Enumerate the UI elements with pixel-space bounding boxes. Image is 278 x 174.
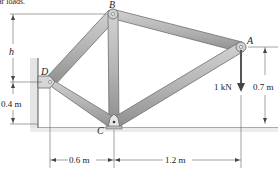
dim-label-0-6m: 0.6 m [69,155,90,165]
member-db [46,10,117,86]
dim-label-0-4m: 0.4 m [1,99,22,109]
header-fragment: ar loads. [0,0,25,6]
dim-label-h: h [9,46,14,57]
truss-members [46,9,244,129]
joint-label-c: C [97,125,104,136]
load-arrow [237,50,245,92]
dim-label-0-7m: 0.7 m [253,82,274,92]
joint-label-a: A [246,35,254,46]
dimension-lines [10,14,278,168]
joint-label-d: D [40,66,49,77]
joint-label-b: B [109,0,115,10]
member-bc [108,14,119,124]
member-dc [48,77,117,129]
member-ba [112,9,242,52]
load-label: 1 kN [214,82,232,92]
truss-diagram: ar loads. [0,0,278,174]
dim-label-1-2m: 1.2 m [165,155,186,165]
